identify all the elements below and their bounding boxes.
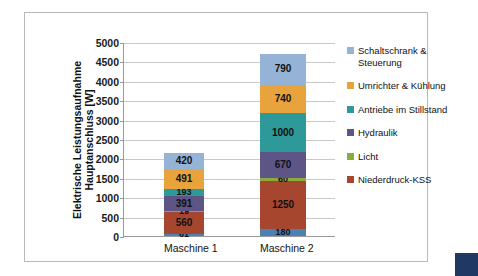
y-tick-mark [120,159,124,160]
y-tick-label: 3500 [96,95,119,107]
bar-segment[interactable]: 1250 [260,181,306,230]
screenshot-root: Elektrische Leistungsaufnahme Hauptansch… [0,0,478,276]
bar-segment[interactable]: 180 [260,229,306,236]
y-tick-mark [120,101,124,102]
bar-segment[interactable]: 790 [260,54,306,85]
legend-swatch-icon [347,106,354,113]
y-tick-mark [120,218,124,219]
y-tick-label: 500 [101,212,119,224]
y-tick-label: 1500 [96,173,119,185]
legend-label: Umrichter & Kühlung [358,80,446,92]
y-tick-mark [120,198,124,199]
legend-label: Licht [358,151,378,163]
legend-item-1[interactable]: Schaltschrank & Steuerung [347,45,451,68]
bar-segment-value: 1250 [272,200,294,210]
y-tick-mark [120,237,124,238]
accent-block [455,253,478,276]
legend-item-4[interactable]: Hydraulik [347,127,451,139]
bar-segment[interactable]: 1000 [260,113,306,152]
figure-frame: Elektrische Leistungsaufnahme Hauptansch… [24,12,428,262]
legend-swatch-icon [347,176,354,183]
bar-1[interactable]: 6156019391193491420Maschine 1 [164,153,204,236]
bar-segment-value: 670 [275,160,292,170]
y-tick-label: 0 [113,231,119,243]
y-tick-label: 5000 [96,37,119,49]
y-tick-label: 2500 [96,134,119,146]
y-tick-mark [120,43,124,44]
y-tick-label: 3000 [96,115,119,127]
legend-item-6[interactable]: Niederdruck-KSS [347,174,451,186]
legend-label: Schaltschrank & Steuerung [358,45,451,68]
bar-2[interactable]: 1801250606701000740790Maschine 2 [260,54,306,236]
bar-segment[interactable]: 60 [260,178,306,180]
y-tick-mark [120,62,124,63]
legend-label: Antriebe im Stillstand [358,104,447,116]
plot-area: 5000450040003500300025002000150010005000… [123,43,335,237]
bar-segment[interactable]: 420 [164,153,204,169]
bar-segment-value: 560 [176,218,193,228]
y-tick-mark [120,179,124,180]
bar-segment-value: 740 [275,94,292,104]
x-category-label: Maschine 2 [260,242,306,254]
bar-segment[interactable]: 670 [260,152,306,178]
chart-legend: Schaltschrank & SteuerungUmrichter & Küh… [347,45,451,198]
legend-item-5[interactable]: Licht [347,151,451,163]
bar-segment-value: 491 [176,174,193,184]
bar-segment-value: 193 [176,188,191,197]
y-tick-label: 4000 [96,76,119,88]
y-tick-mark [120,121,124,122]
bar-segment[interactable]: 391 [164,196,204,211]
y-tick-label: 1000 [96,192,119,204]
legend-swatch-icon [347,82,354,89]
gridline [124,43,335,44]
bar-segment[interactable]: 19 [164,211,204,212]
bar-segment-value: 180 [275,228,290,237]
bar-segment[interactable]: 491 [164,170,204,189]
x-category-label: Maschine 1 [164,242,204,254]
legend-swatch-icon [347,153,354,160]
y-tick-mark [120,82,124,83]
legend-swatch-icon [347,47,354,54]
y-tick-mark [120,140,124,141]
legend-label: Hydraulik [358,127,398,139]
y-tick-label: 2000 [96,153,119,165]
bar-segment-value: 391 [176,199,193,209]
legend-item-2[interactable]: Umrichter & Kühlung [347,80,451,92]
legend-swatch-icon [347,129,354,136]
bar-segment[interactable]: 193 [164,189,204,196]
legend-label: Niederdruck-KSS [358,174,431,186]
bar-segment[interactable]: 740 [260,85,306,114]
bar-segment-value: 790 [275,64,292,74]
legend-item-3[interactable]: Antriebe im Stillstand [347,104,451,116]
bar-segment-value: 420 [176,156,193,166]
y-tick-label: 4500 [96,56,119,68]
bar-segment[interactable]: 61 [164,234,204,236]
bar-segment-value: 1000 [272,128,294,138]
